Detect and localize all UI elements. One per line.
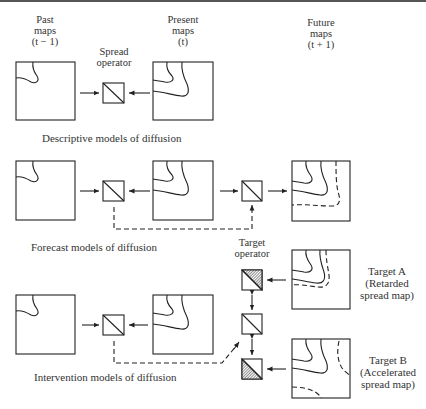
dashed-feedback-line [114, 341, 237, 363]
arrow-icon [234, 342, 239, 349]
target-operator-a [242, 270, 262, 290]
target-a-label: Target A (Retarded spread map) [352, 265, 422, 301]
target-operator-label: Target operator [224, 237, 280, 259]
present-map [153, 295, 213, 354]
spread-operator-label: Spread operator [88, 46, 140, 68]
forecast-operator [242, 181, 262, 201]
present-maps-label: Present maps (t) [155, 14, 211, 47]
future-map [292, 161, 350, 221]
target-operator-b [242, 359, 262, 379]
row-forecast [16, 161, 350, 229]
dashed-feedback-line [114, 206, 252, 229]
target-b-map [292, 339, 350, 398]
target-a-map [292, 250, 350, 309]
past-map [16, 161, 75, 220]
target-operator-center [242, 314, 262, 334]
past-map [16, 62, 75, 120]
row-descriptive [16, 62, 213, 120]
spread-operator [103, 181, 124, 201]
descriptive-caption: Descriptive models of diffusion [42, 132, 181, 144]
past-map [16, 295, 75, 354]
present-map [153, 161, 213, 220]
spread-operator [103, 83, 124, 103]
diffusion-diagram [0, 0, 426, 409]
present-map [153, 62, 213, 120]
target-b-label: Target B (Accelerated spread map) [352, 354, 424, 390]
forecast-caption: Forecast models of diffusion [31, 241, 157, 253]
intervention-caption: Intervention models of diffusion [34, 371, 176, 383]
past-maps-label: Past maps (t − 1) [18, 14, 72, 47]
future-maps-label: Future maps (t + 1) [290, 17, 352, 50]
spread-operator [103, 315, 124, 335]
